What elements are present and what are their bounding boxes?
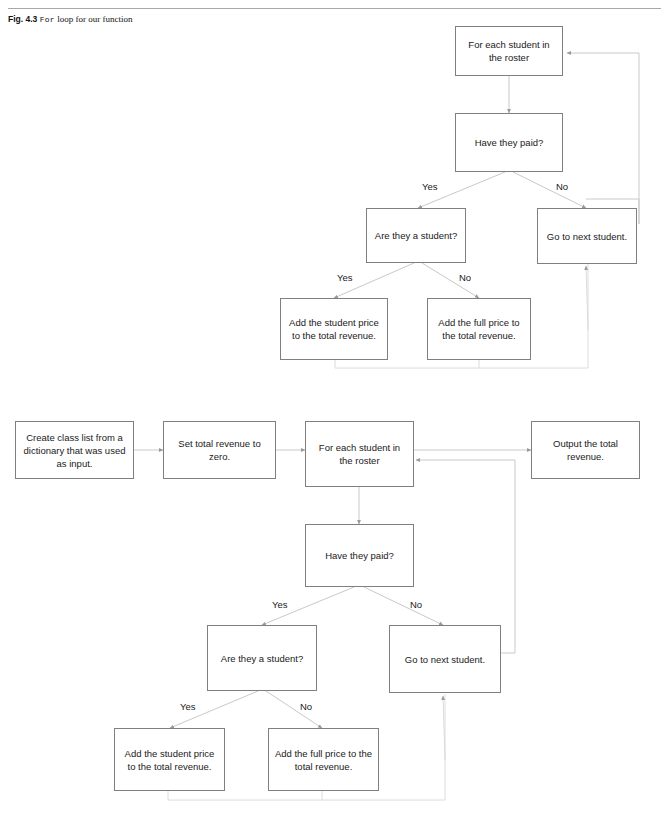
node-output-total-revenue[interactable]: Output the total revenue. — [531, 421, 640, 479]
node-create-class-list[interactable]: Create class list from a dictionary that… — [15, 421, 134, 479]
edge-label-paid-no: No — [556, 181, 568, 192]
edge-label-student-yes: Yes — [180, 701, 196, 712]
figure-number: Fig. 4.3 — [8, 14, 37, 24]
node-add-full-price[interactable]: Add the full price to the total revenue. — [268, 728, 379, 791]
running-header-text — [430, 0, 661, 5]
figure-caption: Fig. 4.3 For loop for our function — [8, 14, 168, 26]
edge-label-paid-no: No — [410, 599, 422, 610]
figure-title-serif: loop for our function — [57, 14, 132, 24]
node-label: Have they paid? — [461, 136, 557, 149]
node-label: Output the total revenue. — [537, 437, 634, 463]
node-label: Add the full price to the total revenue. — [433, 316, 525, 342]
node-for-each-student[interactable]: For each student in the roster — [305, 421, 414, 487]
node-add-full-price[interactable]: Add the full price to the total revenue. — [427, 298, 531, 360]
node-label: Add the student price to the total reven… — [286, 316, 382, 342]
node-have-they-paid[interactable]: Have they paid? — [455, 113, 563, 172]
node-add-student-price[interactable]: Add the student price to the total reven… — [114, 728, 225, 791]
node-are-they-a-student[interactable]: Are they a student? — [207, 625, 317, 691]
header-rule-right — [330, 8, 661, 9]
figure-title-mono: For — [40, 15, 55, 24]
node-set-total-revenue[interactable]: Set total revenue to zero. — [163, 421, 276, 479]
node-have-they-paid[interactable]: Have they paid? — [305, 524, 414, 587]
node-label: Set total revenue to zero. — [169, 437, 270, 463]
node-label: Are they a student? — [372, 229, 460, 242]
node-label: For each student in the roster — [461, 38, 557, 64]
node-label: Go to next student. — [543, 230, 631, 243]
node-add-student-price[interactable]: Add the student price to the total reven… — [280, 298, 388, 360]
node-go-to-next-student[interactable]: Go to next student. — [537, 208, 637, 264]
edge-label-paid-yes: Yes — [272, 599, 288, 610]
node-label: Add the full price to the total revenue. — [274, 747, 373, 773]
node-go-to-next-student[interactable]: Go to next student. — [389, 625, 501, 693]
edge-label-student-no: No — [459, 272, 471, 283]
node-label: Go to next student. — [395, 653, 495, 666]
node-label: Add the student price to the total reven… — [120, 747, 219, 773]
node-label: Have they paid? — [311, 549, 408, 562]
node-label: For each student in the roster — [311, 441, 408, 467]
edge-label-paid-yes: Yes — [422, 181, 438, 192]
node-label: Create class list from a dictionary that… — [21, 431, 128, 470]
edge-label-student-yes: Yes — [337, 272, 353, 283]
node-for-each-student[interactable]: For each student in the roster — [455, 26, 563, 76]
node-are-they-a-student[interactable]: Are they a student? — [366, 208, 466, 263]
node-label: Are they a student? — [213, 652, 311, 665]
header-rule-left — [8, 8, 330, 9]
edge-label-student-no: No — [300, 701, 312, 712]
